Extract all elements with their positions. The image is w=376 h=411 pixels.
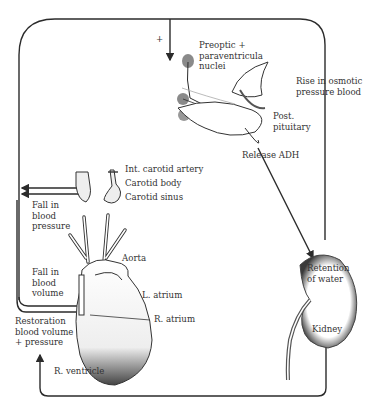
plus-sign: + bbox=[156, 34, 163, 45]
l-atrium-label: L. atrium bbox=[142, 290, 182, 301]
carotid-sinus-label: Carotid sinus bbox=[125, 192, 183, 203]
release-adh-label: Release ADH bbox=[242, 150, 299, 161]
carotid-body-label: Carotid body bbox=[125, 178, 181, 189]
restoration-label: Restoration blood volume + pressure bbox=[15, 316, 73, 348]
carotid-illustration bbox=[76, 170, 121, 203]
int-carotid-artery-label: Int. carotid artery bbox=[125, 164, 203, 175]
r-atrium-label: R. atrium bbox=[154, 314, 195, 325]
aorta-label: Aorta bbox=[122, 253, 146, 264]
fall-blood-pressure-label: Fall in blood pressure bbox=[32, 200, 70, 232]
heart-illustration bbox=[70, 215, 152, 385]
kidney-label: Kidney bbox=[312, 324, 342, 335]
osmotic-pressure-label: Rise in osmotic pressure blood bbox=[296, 76, 362, 97]
fall-blood-volume-label: Fall in blood volume bbox=[32, 267, 64, 299]
preoptic-label: Preoptic + paraventricula nuclei bbox=[199, 40, 263, 72]
post-pituitary-label: Post. pituitary bbox=[273, 111, 311, 132]
retention-of-water-label: Retention of water bbox=[307, 263, 350, 284]
r-ventricle-label: R. ventricle bbox=[54, 366, 104, 377]
